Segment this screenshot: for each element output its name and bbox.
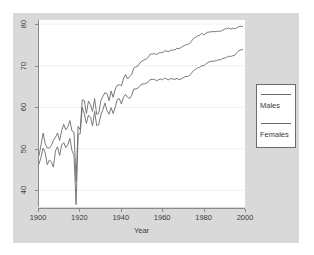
y-tick-mark (35, 24, 38, 25)
y-tick-mark (35, 66, 38, 67)
x-tick-mark (162, 209, 163, 212)
line-chart-svg (39, 20, 245, 207)
x-tick-mark (38, 209, 39, 212)
x-tick-label: 1900 (24, 213, 52, 222)
x-tick-label: 1980 (190, 213, 218, 222)
x-tick-label: 1960 (148, 213, 176, 222)
y-tick-label: 40 (16, 184, 32, 196)
series-line-females (39, 26, 243, 181)
legend-label-females: Females (260, 130, 289, 139)
y-tick-label: 70 (16, 60, 32, 72)
y-tick-label: 80 (16, 18, 32, 30)
series-line-males (39, 50, 243, 205)
chart-figure: 4050607080 190019201940196019802000 Year… (0, 0, 314, 255)
legend-key-line-males (261, 94, 291, 95)
x-axis-line (38, 208, 245, 209)
y-tick-label: 50 (16, 143, 32, 155)
data-series-group (39, 26, 243, 204)
x-axis-title: Year (38, 226, 245, 235)
x-tick-label: 1940 (107, 213, 135, 222)
x-tick-mark (121, 209, 122, 212)
y-tick-mark (35, 149, 38, 150)
gridlines (39, 24, 245, 190)
legend: Males Females (256, 84, 296, 148)
x-tick-mark (245, 209, 246, 212)
x-tick-label: 2000 (231, 213, 259, 222)
legend-key-line-females (261, 123, 291, 124)
x-tick-label: 1920 (65, 213, 93, 222)
legend-label-males: Males (260, 101, 280, 110)
x-tick-mark (204, 209, 205, 212)
y-tick-mark (35, 190, 38, 191)
plot-area (38, 20, 245, 207)
y-tick-mark (35, 107, 38, 108)
x-tick-mark (79, 209, 80, 212)
y-tick-label: 60 (16, 101, 32, 113)
